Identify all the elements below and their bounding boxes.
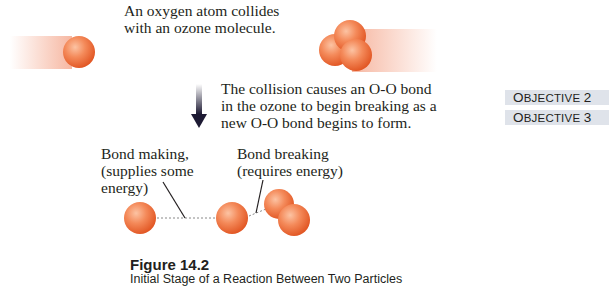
objective-label: BJECTIVE <box>524 92 581 104</box>
objective-number: 2 <box>584 90 592 105</box>
bond-making-line1: Bond making, <box>101 145 194 162</box>
step2-line1: The collision causes an O-O bond <box>221 80 437 97</box>
step1-caption: An oxygen atom collides with an ozone mo… <box>124 2 279 36</box>
objective-prefix: O <box>513 110 524 125</box>
objective-number: 3 <box>584 110 592 125</box>
bond-making-line2: (supplies some <box>101 162 194 179</box>
bond-breaking-leader <box>256 180 263 213</box>
objective-2-badge[interactable]: OBJECTIVE 2 <box>505 90 609 105</box>
bond-making-label: Bond making, (supplies some energy) <box>101 145 194 196</box>
bond-making-line3: energy) <box>101 179 194 196</box>
step1-line1: An oxygen atom collides <box>124 2 279 19</box>
figure-title: Figure 14.2 <box>130 256 209 273</box>
step2-line2: in the ozone to begin breaking as a <box>221 97 437 114</box>
objective-label: BJECTIVE <box>524 112 581 124</box>
bond-breaking-label: Bond breaking (requires energy) <box>237 145 343 179</box>
figure-caption: Initial Stage of a Reaction Between Two … <box>130 272 402 286</box>
objective-prefix: O <box>513 90 524 105</box>
objective-3-badge[interactable]: OBJECTIVE 3 <box>505 110 609 125</box>
bond-breaking-line1: Bond breaking <box>237 145 343 162</box>
down-arrow-icon <box>191 84 207 128</box>
ozone-molecule-moving <box>319 20 437 72</box>
step2-line3: new O-O bond begins to form. <box>221 114 437 131</box>
step1-line2: with an ozone molecule. <box>124 19 279 36</box>
step2-caption: The collision causes an O-O bond in the … <box>221 80 437 131</box>
bond-breaking-line2: (requires energy) <box>237 162 343 179</box>
oxygen-atom-moving <box>10 36 95 69</box>
